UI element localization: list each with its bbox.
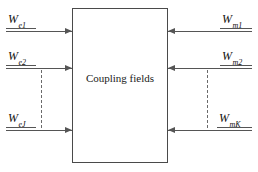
- arrow-shaft-right-1: [168, 31, 252, 32]
- label-input-left-1: We1: [8, 12, 26, 28]
- arrow-shaft-right-3: [168, 130, 252, 131]
- label-input-right-1-base: W: [222, 12, 232, 26]
- label-input-right-3-base: W: [219, 111, 229, 125]
- arrow-head-right-1: [168, 28, 175, 34]
- label-input-right-2-base: W: [222, 49, 232, 63]
- arrow-head-left-1: [65, 28, 72, 34]
- arrow-head-left-3: [65, 127, 72, 133]
- label-input-left-3-base: W: [8, 111, 18, 125]
- arrow-head-left-2: [65, 65, 72, 71]
- label-rule-left-2: [6, 65, 36, 66]
- label-input-right-3: WmK: [219, 111, 240, 127]
- arrow-shaft-left-1: [6, 31, 72, 32]
- label-input-right-1: Wm1: [222, 12, 242, 28]
- arrow-head-right-3: [168, 127, 175, 133]
- label-rule-left-1: [6, 28, 36, 29]
- arrow-shaft-left-3: [6, 130, 72, 131]
- arrow-shaft-right-2: [168, 68, 252, 69]
- label-input-left-1-base: W: [8, 12, 18, 26]
- coupling-fields-block-label: Coupling fields: [72, 72, 168, 85]
- label-rule-right-2: [220, 65, 252, 66]
- coupling-fields-block: [72, 8, 168, 163]
- label-rule-right-1: [220, 28, 252, 29]
- label-rule-right-3: [217, 127, 252, 128]
- label-input-left-2-base: W: [8, 49, 18, 63]
- ellipsis-dashed-line-left: [41, 70, 42, 128]
- label-input-left-3: WeJ: [8, 111, 25, 127]
- label-rule-left-3: [6, 127, 36, 128]
- label-input-left-2: We2: [8, 49, 26, 65]
- label-input-right-2: Wm2: [222, 49, 242, 65]
- arrow-head-right-2: [168, 65, 175, 71]
- ellipsis-dashed-line-right: [207, 70, 208, 128]
- arrow-shaft-left-2: [6, 68, 72, 69]
- coupling-fields-diagram: Coupling fields We1 We2 WeJ Wm1 Wm2 WmK: [0, 0, 258, 172]
